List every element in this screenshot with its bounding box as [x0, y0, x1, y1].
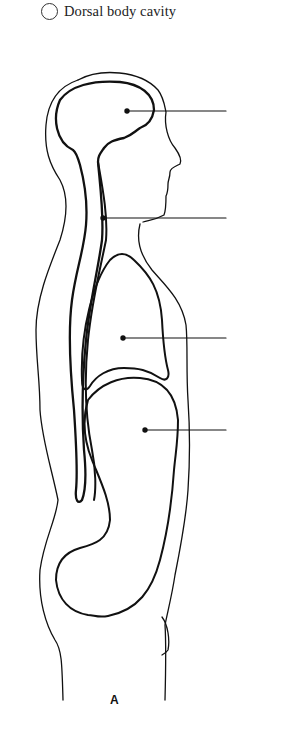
leader-line-abdominopelvic-cavity: [142, 427, 226, 432]
dorsal-cavity-outline: [56, 82, 154, 502]
body-outline-head: [78, 73, 181, 222]
leader-line-cranial-cavity: [124, 108, 226, 113]
body-outline-front: [139, 224, 190, 700]
leader-line-thoracic-cavity: [120, 335, 226, 340]
body-cavity-diagram: [0, 0, 293, 735]
figure-label: A: [110, 693, 119, 707]
